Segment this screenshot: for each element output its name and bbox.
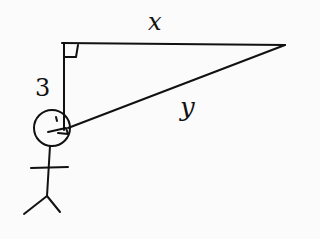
- side-x: [62, 43, 285, 45]
- stick-figure-right-leg: [47, 196, 60, 212]
- stick-figure-body: [47, 146, 50, 196]
- right-angle-marker: [64, 45, 78, 57]
- stick-figure-arms: [31, 167, 68, 168]
- label-3: 3: [35, 74, 50, 102]
- stick-figure-mouth: [48, 128, 68, 134]
- stick-figure-left-leg: [24, 196, 47, 214]
- label-x: x: [148, 8, 162, 36]
- label-y: y: [180, 92, 195, 122]
- stick-figure-eye: [56, 117, 57, 121]
- side-y: [68, 45, 285, 128]
